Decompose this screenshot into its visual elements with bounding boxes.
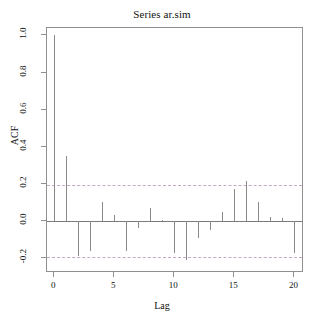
acf-bar-lag-18 xyxy=(270,217,271,221)
acf-bar-lag-0 xyxy=(54,35,55,221)
acf-bar-lag-17 xyxy=(258,202,259,221)
x-axis-tick-label: 10 xyxy=(158,280,188,290)
y-axis-tick xyxy=(41,109,46,110)
acf-bar-lag-9 xyxy=(162,220,163,221)
acf-bar-lag-12 xyxy=(198,221,199,238)
y-axis-tick-label: 0.4 xyxy=(18,132,28,158)
acf-bar-lag-7 xyxy=(138,221,139,228)
acf-plot-figure: Series ar.sim ACF Lag 1.00.80.60.40.20.0… xyxy=(0,0,324,328)
confidence-band-line-lower xyxy=(47,257,302,258)
x-axis-tick xyxy=(173,272,174,277)
y-axis-tick xyxy=(41,257,46,258)
y-axis-tick-label: 0.6 xyxy=(18,95,28,121)
x-axis-tick-label: 15 xyxy=(218,280,248,290)
plot-area xyxy=(46,27,303,272)
acf-bar-lag-15 xyxy=(234,189,235,221)
acf-bar-lag-1 xyxy=(66,156,67,221)
x-axis-tick xyxy=(293,272,294,277)
y-axis-tick-label: -0.2 xyxy=(18,243,28,269)
acf-bar-lag-6 xyxy=(126,221,127,251)
acf-bar-lag-5 xyxy=(114,215,115,221)
acf-bar-lag-19 xyxy=(282,218,283,221)
acf-bar-lag-2 xyxy=(78,221,79,256)
x-axis-tick-label: 20 xyxy=(278,280,308,290)
y-axis-tick xyxy=(41,220,46,221)
acf-bar-lag-13 xyxy=(210,221,211,230)
x-axis-tick xyxy=(233,272,234,277)
acf-bar-lag-14 xyxy=(222,212,223,221)
x-axis-tick xyxy=(53,272,54,277)
y-axis-tick xyxy=(41,183,46,184)
y-axis-tick xyxy=(41,72,46,73)
plot-inner xyxy=(47,28,302,271)
acf-bar-lag-16 xyxy=(246,181,247,221)
x-axis-tick-label: 0 xyxy=(38,280,68,290)
y-axis-tick-label: 0.8 xyxy=(18,58,28,84)
x-axis-tick xyxy=(113,272,114,277)
y-axis-tick xyxy=(41,34,46,35)
acf-bar-lag-3 xyxy=(90,221,91,251)
acf-bar-lag-20 xyxy=(294,221,295,253)
chart-title: Series ar.sim xyxy=(0,8,324,20)
y-axis-tick-label: 1.0 xyxy=(18,20,28,46)
y-axis-tick-label: 0.2 xyxy=(18,169,28,195)
acf-bar-lag-4 xyxy=(102,202,103,221)
x-axis-tick-label: 5 xyxy=(98,280,128,290)
x-axis-label: Lag xyxy=(0,300,324,311)
confidence-band-line-upper xyxy=(47,185,302,186)
acf-bar-lag-11 xyxy=(186,221,187,260)
y-axis-tick-label: 0.0 xyxy=(18,206,28,232)
acf-bar-lag-8 xyxy=(150,208,151,221)
acf-bar-lag-10 xyxy=(174,221,175,253)
y-axis-tick xyxy=(41,146,46,147)
